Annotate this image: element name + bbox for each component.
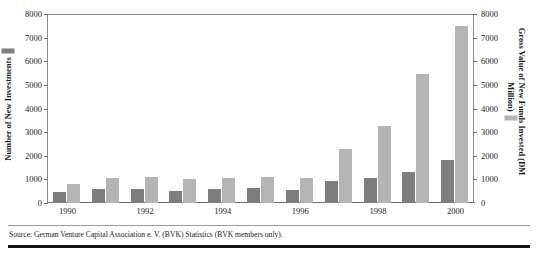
right-axis-title-text: Gross Value of New Funds Invested (DM Mi… xyxy=(506,28,526,176)
footer-divider-thin xyxy=(8,225,530,226)
bar-group xyxy=(364,126,391,203)
bar-group xyxy=(92,178,119,203)
left-tick-label: 4000 xyxy=(14,105,42,114)
bar-group xyxy=(208,178,235,204)
bar-investments xyxy=(247,188,260,203)
left-tick-label: 8000 xyxy=(14,10,42,19)
bar-group xyxy=(169,179,196,203)
legend-swatch-investments xyxy=(2,48,15,53)
bar-investments xyxy=(208,189,221,203)
bar-gross-value xyxy=(222,178,235,204)
bar-investments xyxy=(131,189,144,203)
bar-gross-value xyxy=(261,177,274,203)
bar-investments xyxy=(402,172,415,203)
left-axis-title-text: Number of New Investments xyxy=(3,57,13,161)
left-tick-label: 1000 xyxy=(14,175,42,184)
left-tick-label: 7000 xyxy=(14,34,42,43)
bar-gross-value xyxy=(183,179,196,203)
bar-investments xyxy=(53,192,66,203)
right-tick-label: 5000 xyxy=(481,81,498,90)
footer-divider-thick xyxy=(8,245,530,248)
bar-investments xyxy=(92,189,105,203)
source-note: Source: German Venture Capital Associati… xyxy=(9,230,529,240)
bar-investments xyxy=(286,190,299,203)
bar-investments xyxy=(441,160,454,203)
bar-gross-value xyxy=(339,149,352,203)
bar-gross-value xyxy=(378,126,391,203)
right-tick-label: 0 xyxy=(481,199,485,208)
left-tick-label: 6000 xyxy=(14,57,42,66)
right-axis-title: Gross Value of New Funds Invested (DM Mi… xyxy=(504,26,527,178)
bar-gross-value xyxy=(300,178,313,203)
bar-group xyxy=(441,26,468,203)
bar-investments xyxy=(325,181,338,203)
right-tick-label: 7000 xyxy=(481,34,498,43)
x-axis-label: 1994 xyxy=(203,206,243,216)
bar-group xyxy=(325,149,352,203)
bar-gross-value xyxy=(106,178,119,203)
right-tick-label: 1000 xyxy=(481,175,498,184)
bar-group xyxy=(402,74,429,203)
left-tick-label: 0 xyxy=(14,199,42,208)
bar-group xyxy=(131,177,158,203)
left-tick-label: 3000 xyxy=(14,128,42,137)
bar-group xyxy=(286,178,313,203)
bar-gross-value xyxy=(416,74,429,203)
x-axis-label: 1992 xyxy=(125,206,165,216)
x-axis-label: 1996 xyxy=(280,206,320,216)
bar-group xyxy=(247,177,274,203)
bar-gross-value xyxy=(145,177,158,203)
x-axis-label: 1990 xyxy=(47,206,87,216)
x-axis-label: 1998 xyxy=(358,206,398,216)
right-tick-label: 4000 xyxy=(481,105,498,114)
bar-gross-value xyxy=(455,26,468,203)
bar-series-container xyxy=(48,15,474,203)
legend-swatch-gross-value xyxy=(505,116,518,121)
left-tick-label: 2000 xyxy=(14,152,42,161)
right-tick-label: 8000 xyxy=(481,10,498,19)
right-tick-label: 2000 xyxy=(481,152,498,161)
bar-investments xyxy=(169,191,182,203)
chart-figure: Number of New Investments Gross Value of… xyxy=(0,0,538,253)
right-tick-label: 6000 xyxy=(481,57,498,66)
right-tick-label: 3000 xyxy=(481,128,498,137)
x-axis-label: 2000 xyxy=(436,206,476,216)
bar-gross-value xyxy=(67,184,80,203)
left-tick-mark xyxy=(44,203,48,204)
left-tick-label: 5000 xyxy=(14,81,42,90)
right-axis-title-container: Gross Value of New Funds Invested (DM Mi… xyxy=(497,12,533,172)
bar-investments xyxy=(364,178,377,204)
bar-group xyxy=(53,184,80,203)
